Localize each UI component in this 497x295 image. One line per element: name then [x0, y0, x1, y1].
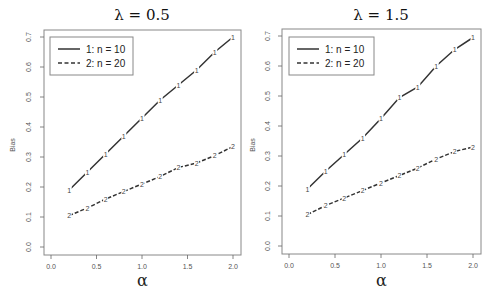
series-marker: 2 [471, 144, 475, 151]
y-tick-label: 0.2 [25, 182, 32, 192]
series-marker: 1 [213, 49, 217, 56]
series-marker: 2 [453, 148, 457, 155]
series-marker: 1 [324, 168, 328, 175]
y-tick-label: 0.7 [264, 31, 271, 41]
series-marker: 1 [416, 84, 420, 91]
series-line-2 [307, 147, 473, 215]
series-marker: 2 [85, 205, 89, 212]
series-marker: 2 [379, 180, 383, 187]
series-marker: 1 [195, 67, 199, 74]
x-tick-label: 0.5 [330, 262, 340, 269]
y-tick-label: 0.6 [264, 61, 271, 71]
series-marker: 1 [379, 115, 383, 122]
series-marker: 2 [213, 152, 217, 159]
y-tick-label: 0.6 [25, 62, 32, 72]
series-marker: 1 [104, 151, 108, 158]
chart-title: λ = 0.5 [114, 6, 169, 24]
x-axis-label: α [376, 271, 387, 290]
y-tick-label: 0.7 [25, 32, 32, 42]
x-tick-label: 0.0 [46, 263, 56, 270]
series-marker: 1 [140, 115, 144, 122]
series-marker: 2 [67, 212, 71, 219]
series-marker: 2 [231, 143, 235, 150]
series-marker: 2 [305, 211, 309, 218]
series-marker: 1 [67, 187, 71, 194]
series-marker: 1 [176, 82, 180, 89]
series-marker: 2 [158, 173, 162, 180]
y-tick-label: 0.0 [25, 242, 32, 252]
x-tick-label: 1.0 [137, 263, 147, 270]
legend-label-1: 1: n = 10 [325, 44, 365, 55]
x-tick-label: 0.5 [92, 263, 102, 270]
series-marker: 2 [324, 202, 328, 209]
series-marker: 1 [397, 94, 401, 101]
panel-lambda-1-5: λ = 1.50.00.51.01.52.00.00.10.20.30.40.5… [249, 6, 481, 290]
series-marker: 1 [122, 133, 126, 140]
y-tick-label: 0.4 [25, 122, 32, 132]
y-tick-label: 0.1 [264, 211, 271, 221]
x-tick-label: 1.5 [183, 263, 193, 270]
x-tick-label: 1.5 [422, 262, 432, 269]
y-axis-label: Bias [249, 138, 256, 152]
series-marker: 1 [231, 34, 235, 41]
x-tick-label: 2.0 [228, 263, 238, 270]
y-tick-label: 0.0 [264, 241, 271, 251]
x-tick-label: 1.0 [376, 262, 386, 269]
legend-label-2: 2: n = 20 [86, 58, 126, 69]
series-line-2 [69, 147, 233, 216]
series-marker: 2 [195, 160, 199, 167]
x-axis-label: α [137, 271, 148, 290]
x-tick-label: 0.0 [284, 262, 294, 269]
y-tick-label: 0.5 [25, 92, 32, 102]
series-marker: 2 [416, 165, 420, 172]
series-marker: 1 [361, 135, 365, 142]
series-marker: 2 [140, 181, 144, 188]
y-tick-label: 0.3 [264, 151, 271, 161]
series-marker: 1 [305, 186, 309, 193]
y-tick-label: 0.1 [25, 212, 32, 222]
legend-label-2: 2: n = 20 [325, 58, 365, 69]
y-axis-label: Bias [9, 138, 16, 152]
series-marker: 1 [453, 46, 457, 53]
series-marker: 2 [104, 196, 108, 203]
y-tick-label: 0.4 [264, 121, 271, 131]
panel-lambda-0-5: λ = 0.50.00.51.01.52.00.00.10.20.30.40.5… [9, 6, 241, 290]
series-marker: 1 [342, 151, 346, 158]
series-marker: 2 [122, 188, 126, 195]
x-tick-label: 2.0 [468, 262, 478, 269]
series-marker: 2 [397, 172, 401, 179]
y-tick-label: 0.2 [264, 181, 271, 191]
series-marker: 1 [85, 169, 89, 176]
series-marker: 2 [176, 164, 180, 171]
series-marker: 1 [434, 63, 438, 70]
y-tick-label: 0.3 [25, 152, 32, 162]
y-tick-label: 0.5 [264, 91, 271, 101]
series-marker: 2 [361, 187, 365, 194]
series-marker: 2 [342, 195, 346, 202]
series-marker: 1 [471, 34, 475, 41]
chart-title: λ = 1.5 [353, 6, 408, 24]
series-marker: 2 [434, 156, 438, 163]
series-marker: 1 [158, 97, 162, 104]
figure: λ = 0.50.00.51.01.52.00.00.10.20.30.40.5… [0, 0, 497, 295]
legend-label-1: 1: n = 10 [86, 44, 126, 55]
